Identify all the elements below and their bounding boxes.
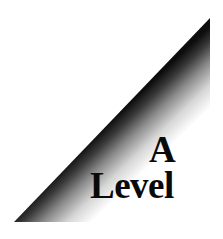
a-level-logo: A Level <box>0 0 223 239</box>
title-word-level: Level <box>90 167 174 204</box>
title-letter-a: A <box>149 131 176 168</box>
